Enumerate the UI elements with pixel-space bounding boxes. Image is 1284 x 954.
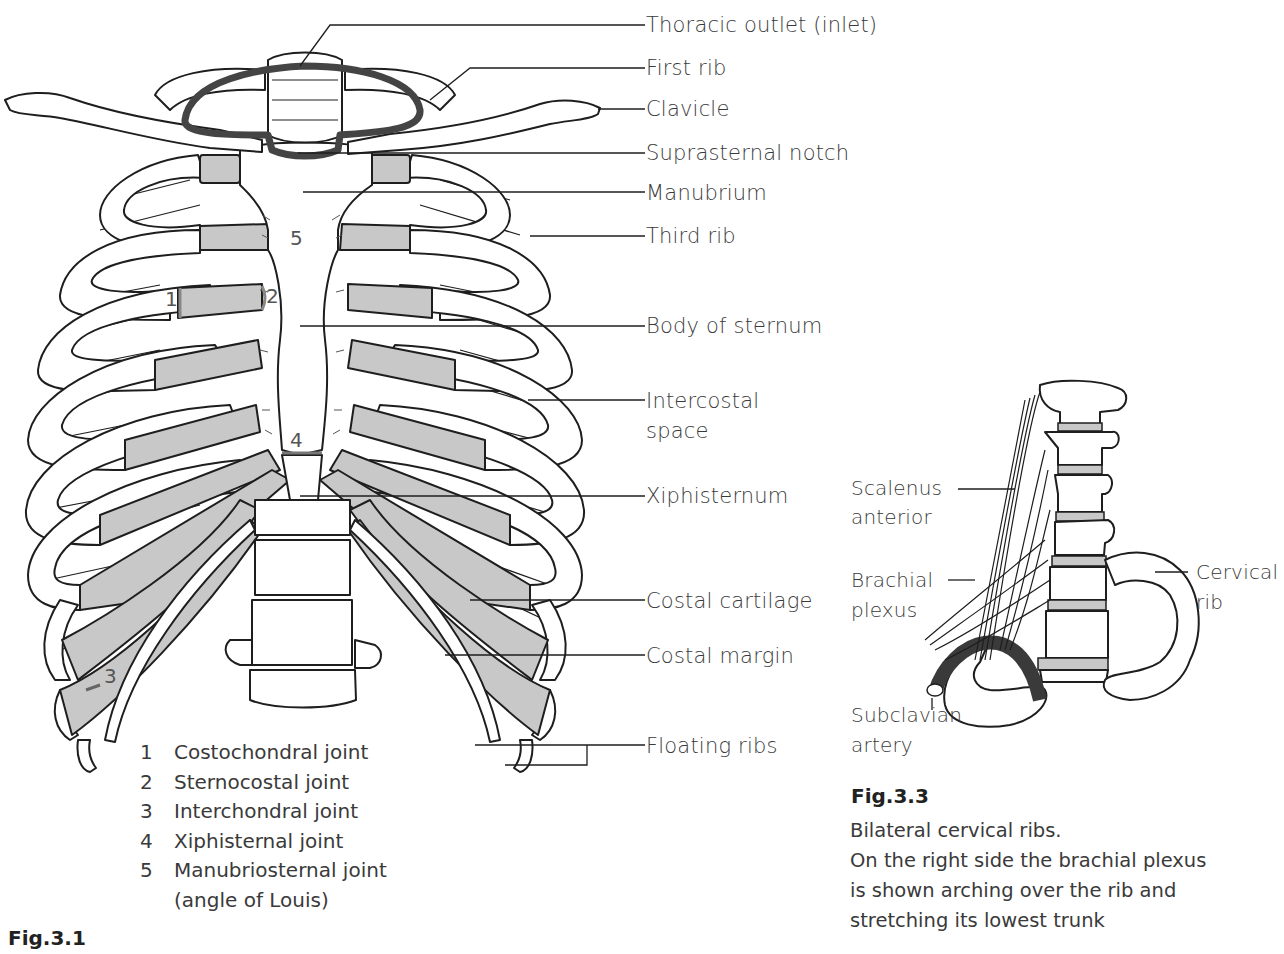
label-thoracic-outlet: Thoracic outlet (inlet) [646, 10, 877, 40]
cervical-spine-illustration [925, 381, 1199, 727]
legend-item: 3Interchondral joint [140, 797, 387, 827]
legend-number: 2 [140, 768, 174, 798]
label-cervical-rib-1: Cervical [1196, 557, 1278, 587]
legend-text: Costochondral joint [174, 738, 368, 768]
legend-text: Interchondral joint [174, 797, 358, 827]
caption-line: Bilateral cervical ribs. [850, 816, 1270, 846]
label-subclavian-artery-2: artery [851, 730, 913, 760]
joint-marker-4: 4 [290, 428, 303, 452]
figure-3-1-title: Fig.3.1 [8, 926, 86, 950]
legend-number: 1 [140, 738, 174, 768]
legend-item: 4Xiphisternal joint [140, 827, 387, 857]
label-body-of-sternum: Body of sternum [646, 311, 822, 341]
joint-marker-3: 3 [104, 664, 117, 688]
joint-marker-5: 5 [290, 226, 303, 250]
legend-text: Xiphisternal joint [174, 827, 343, 857]
legend-item: 1Costochondral joint [140, 738, 387, 768]
label-brachial-plexus-1: Brachial [851, 565, 933, 595]
label-manubrium: Manubrium [646, 178, 767, 208]
legend-item: (angle of Louis) [140, 886, 387, 916]
label-scalenus-anterior-2: anterior [851, 502, 932, 532]
legend-text: Manubriosternal joint [174, 856, 387, 886]
scalenus-fibres [975, 392, 1050, 660]
figure-3-3-caption: Bilateral cervical ribs. On the right si… [850, 816, 1270, 936]
label-cervical-rib-2: rib [1196, 587, 1223, 617]
caption-line: On the right side the brachial plexus [850, 846, 1270, 876]
legend-number: 5 [140, 856, 174, 886]
label-third-rib: Third rib [646, 221, 736, 251]
legend-text: Sternocostal joint [174, 768, 349, 798]
joint-legend: 1Costochondral joint 2Sternocostal joint… [140, 738, 387, 915]
caption-line: stretching its lowest trunk [850, 906, 1270, 936]
clavicle-left [5, 93, 262, 152]
label-intercostal-space-2: space [646, 416, 709, 446]
label-floating-ribs: Floating ribs [646, 731, 778, 761]
ribcage-illustration [5, 53, 600, 773]
label-costal-margin: Costal margin [646, 641, 794, 671]
label-first-rib: First rib [646, 53, 726, 83]
legend-text: (angle of Louis) [174, 886, 329, 916]
label-suprasternal-notch: Suprasternal notch [646, 138, 849, 168]
label-costal-cartilage: Costal cartilage [646, 586, 813, 616]
label-subclavian-artery-1: Subclavian [851, 700, 962, 730]
caption-line: is shown arching over the rib and [850, 876, 1270, 906]
joint-marker-2: 2 [266, 284, 279, 308]
legend-item: 5Manubriosternal joint [140, 856, 387, 886]
legend-number: 3 [140, 797, 174, 827]
legend-number [140, 886, 174, 916]
label-intercostal-space-1: Intercostal [646, 386, 759, 416]
legend-item: 2Sternocostal joint [140, 768, 387, 798]
label-xiphisternum: Xiphisternum [646, 481, 789, 511]
label-scalenus-anterior-1: Scalenus [851, 473, 942, 503]
label-brachial-plexus-2: plexus [851, 595, 917, 625]
label-clavicle: Clavicle [646, 94, 730, 124]
legend-number: 4 [140, 827, 174, 857]
joint-marker-1: 1 [165, 287, 178, 311]
figure-3-3-title: Fig.3.3 [851, 784, 929, 808]
